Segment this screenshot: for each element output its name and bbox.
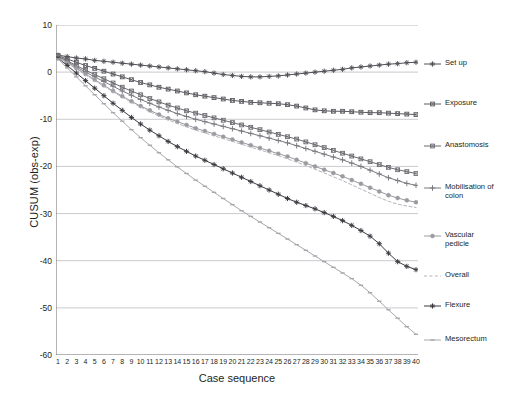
legend-key-icon bbox=[424, 59, 441, 69]
legend-label: Mesorectum bbox=[445, 334, 487, 343]
y-tick-label: -20 bbox=[18, 162, 52, 170]
legend-key-icon bbox=[424, 335, 441, 345]
legend-key-icon bbox=[424, 301, 441, 311]
chart-root: CUSUM (obs-exp) Case sequence 100-10-20-… bbox=[0, 0, 508, 403]
legend-label: Flexure bbox=[445, 300, 470, 309]
legend-item-6[interactable]: Flexure bbox=[424, 300, 470, 311]
series-3 bbox=[56, 54, 418, 188]
legend-label: Set up bbox=[445, 58, 467, 67]
y-axis-label: CUSUM (obs-exp) bbox=[28, 82, 40, 282]
series-6 bbox=[56, 55, 418, 272]
legend-item-2[interactable]: Anastomosis bbox=[424, 140, 488, 151]
legend-item-7[interactable]: Mesorectum bbox=[424, 334, 487, 345]
legend-item-0[interactable]: Set up bbox=[424, 58, 467, 69]
legend-key-icon bbox=[424, 231, 441, 241]
x-axis-ticks: 1234567891011121314151617181920212223242… bbox=[56, 357, 418, 369]
legend-item-1[interactable]: Exposure bbox=[424, 98, 477, 109]
legend-label: Exposure bbox=[445, 98, 477, 107]
chart-canvas bbox=[56, 25, 418, 355]
legend-item-5[interactable]: Overall bbox=[424, 270, 469, 281]
legend-item-4[interactable]: Vascular pedicle bbox=[424, 230, 474, 248]
x-tick-label: 40 bbox=[409, 357, 423, 366]
legend-key-icon bbox=[424, 183, 441, 193]
legend-key-icon bbox=[424, 141, 441, 151]
y-tick-label: -30 bbox=[18, 210, 52, 218]
legend-label: Anastomosis bbox=[445, 140, 488, 149]
legend-label: Vascular pedicle bbox=[445, 230, 474, 248]
x-axis-label: Case sequence bbox=[56, 372, 418, 384]
y-tick-label: -40 bbox=[18, 257, 52, 265]
y-tick-label: -60 bbox=[18, 351, 52, 359]
legend-label: Overall bbox=[445, 270, 469, 279]
y-tick-label: -10 bbox=[18, 115, 52, 123]
y-tick-label: -50 bbox=[18, 304, 52, 312]
legend-label: Mobilisation of colon bbox=[445, 182, 494, 200]
plot-area bbox=[56, 25, 418, 355]
legend-key-icon bbox=[424, 271, 441, 281]
legend-item-3[interactable]: Mobilisation of colon bbox=[424, 182, 494, 200]
series-0 bbox=[56, 53, 418, 80]
series-7 bbox=[56, 59, 418, 334]
y-tick-label: 0 bbox=[18, 68, 52, 76]
legend-key-icon bbox=[424, 99, 441, 109]
y-tick-label: 10 bbox=[18, 21, 52, 29]
